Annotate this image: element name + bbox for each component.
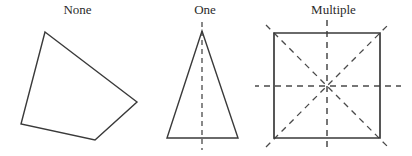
panel-one: One: [155, 0, 255, 156]
panel-multiple-drawing: [255, 0, 412, 156]
symmetry-lines-figure: None One Multiple: [0, 0, 412, 156]
panel-none: None: [0, 0, 155, 156]
panel-multiple: Multiple: [255, 0, 412, 156]
panel-one-drawing: [155, 0, 255, 156]
irregular-quadrilateral-shape: [21, 32, 137, 140]
panel-none-drawing: [0, 0, 155, 156]
